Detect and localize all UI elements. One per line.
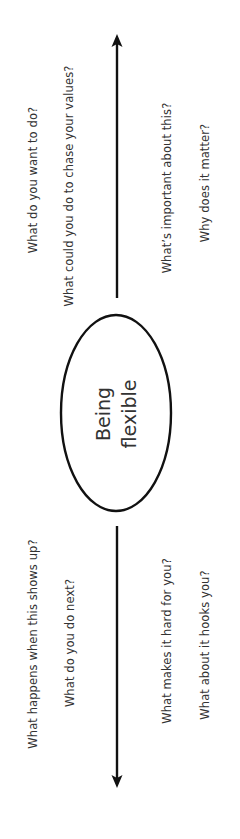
center-label-line2: flexible — [116, 380, 142, 449]
question-chase-values: What could you do to chase your values? — [62, 66, 76, 307]
question-what-do-you-want: What do you want to do? — [26, 107, 40, 254]
question-why-matter: Why does it matter? — [198, 124, 212, 243]
question-what-happens: What happens when this shows up? — [26, 539, 40, 748]
upper-arrow-icon — [112, 34, 123, 298]
question-whats-important: What’s important about this? — [160, 103, 174, 274]
flexibility-diagram: Being flexible What do you want to do? W… — [0, 0, 240, 839]
question-what-next: What do you do next? — [63, 579, 77, 707]
question-what-makes-hard: What makes it hard for you? — [160, 558, 174, 724]
lower-arrow-icon — [112, 526, 123, 788]
center-label-line1: Being — [90, 380, 116, 449]
center-label: Being flexible — [90, 380, 142, 449]
question-what-hooks: What about it hooks you? — [198, 570, 212, 719]
